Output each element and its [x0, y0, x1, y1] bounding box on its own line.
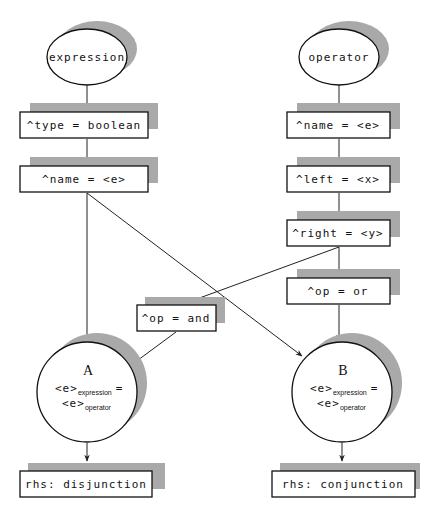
- test-op-name-label: ^name = <e>: [296, 119, 380, 132]
- test-op-and-label: ^op = and: [142, 312, 211, 325]
- test-expr-type-label: ^type = boolean: [27, 119, 141, 132]
- node-operator: operator: [299, 21, 389, 85]
- test-op-or: ^op = or: [287, 269, 400, 304]
- node-expression: expression: [47, 21, 137, 85]
- production-right: rhs: conjunction: [272, 463, 420, 497]
- test-op-left-label: ^left = <x>: [296, 173, 380, 186]
- test-expr-name: ^name = <e>: [20, 157, 158, 192]
- join-node-B: B <e>expression= <e>operator: [292, 333, 402, 442]
- production-right-label: rhs: conjunction: [282, 478, 404, 491]
- node-operator-label: operator: [309, 51, 370, 64]
- test-op-and: ^op = and: [137, 297, 225, 331]
- test-op-name: ^name = <e>: [287, 103, 400, 138]
- test-op-left: ^left = <x>: [287, 157, 400, 192]
- test-op-right-label: ^right = <y>: [292, 227, 383, 240]
- test-expr-name-label: ^name = <e>: [42, 173, 126, 186]
- test-expr-type: ^type = boolean: [20, 103, 158, 138]
- test-op-or-label: ^op = or: [308, 285, 369, 298]
- production-left: rhs: disjunction: [20, 463, 165, 497]
- production-left-label: rhs: disjunction: [25, 478, 147, 491]
- rete-diagram: expression operator ^type = boolean ^nam…: [0, 0, 428, 511]
- join-node-A: A <e>expression= <e>operator: [37, 333, 147, 442]
- node-expression-label: expression: [49, 51, 125, 64]
- test-op-right: ^right = <y>: [287, 211, 400, 246]
- join-A-label: A: [83, 363, 94, 378]
- join-B-label: B: [338, 363, 347, 378]
